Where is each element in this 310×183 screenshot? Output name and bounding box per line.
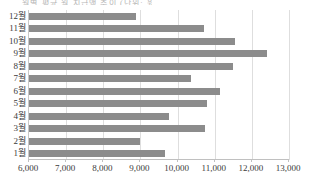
x-axis-tick-11000: 11,000: [201, 163, 225, 173]
bar-chart: 월별 평균 월 지급액 추이 (단위: 원) 12월11월10월9월8월7월6월…: [0, 0, 310, 183]
y-axis-label-6월: 6월: [14, 87, 27, 96]
x-tick-mark-13000: [288, 159, 289, 162]
y-axis-label-12월: 12월: [9, 12, 26, 21]
bar: [29, 38, 235, 45]
chart-caption-fragment: 월별 평균 월 지급액 추이 (단위: 원): [22, 0, 152, 5]
bar: [29, 13, 136, 20]
bar-row: 1월: [29, 150, 288, 158]
y-axis-label-4월: 4월: [14, 112, 27, 121]
y-axis-label-10월: 10월: [9, 37, 26, 46]
bar: [29, 100, 207, 107]
x-tick-mark-7000: [65, 159, 66, 162]
x-tick-mark-11000: [214, 159, 215, 162]
bar: [29, 113, 169, 120]
bar-row: 11월: [29, 25, 288, 33]
x-tick-mark-10000: [177, 159, 178, 162]
bar: [29, 138, 140, 145]
y-axis-label-9월: 9월: [14, 49, 27, 58]
bar-row: 9월: [29, 50, 288, 58]
x-axis-tick-12000: 12,000: [238, 163, 263, 173]
bar-row: 3월: [29, 125, 288, 133]
y-axis-label-1월: 1월: [14, 149, 27, 158]
plot-area: 12월11월10월9월8월7월6월5월4월3월2월1월: [28, 10, 288, 160]
y-axis-label-7월: 7월: [14, 74, 27, 83]
bar-row: 7월: [29, 75, 288, 83]
bar: [29, 25, 204, 32]
y-axis-label-8월: 8월: [14, 62, 27, 71]
bar: [29, 50, 267, 57]
x-axis-labels: 6,0007,0008,0009,00010,00011,00012,00013…: [0, 163, 310, 179]
bar: [29, 63, 233, 70]
bar: [29, 75, 191, 82]
x-axis-tick-6000: 6,000: [18, 163, 38, 173]
y-axis-label-5월: 5월: [14, 99, 27, 108]
x-tick-mark-9000: [139, 159, 140, 162]
bar: [29, 150, 165, 157]
y-axis-label-2월: 2월: [14, 137, 27, 146]
x-tick-mark-12000: [251, 159, 252, 162]
bar-row: 10월: [29, 37, 288, 45]
x-tick-mark-8000: [102, 159, 103, 162]
bar-row: 5월: [29, 100, 288, 108]
x-axis-tick-13000: 13,000: [276, 163, 301, 173]
bar-row: 2월: [29, 137, 288, 145]
bar-row: 6월: [29, 87, 288, 95]
bar-row: 4월: [29, 112, 288, 120]
x-axis-tick-9000: 9,000: [129, 163, 149, 173]
bar: [29, 88, 220, 95]
gridline-13000: [289, 10, 290, 160]
x-axis-line: [28, 159, 289, 160]
x-tick-mark-6000: [28, 159, 29, 162]
x-axis-tick-7000: 7,000: [55, 163, 75, 173]
bar: [29, 125, 205, 132]
x-axis-tick-10000: 10,000: [164, 163, 189, 173]
bar-row: 12월: [29, 12, 288, 20]
y-axis-label-11월: 11월: [9, 24, 26, 33]
bar-row: 8월: [29, 62, 288, 70]
bar-rows: 12월11월10월9월8월7월6월5월4월3월2월1월: [29, 10, 288, 160]
y-axis-label-3월: 3월: [14, 124, 27, 133]
x-axis-tick-8000: 8,000: [92, 163, 112, 173]
